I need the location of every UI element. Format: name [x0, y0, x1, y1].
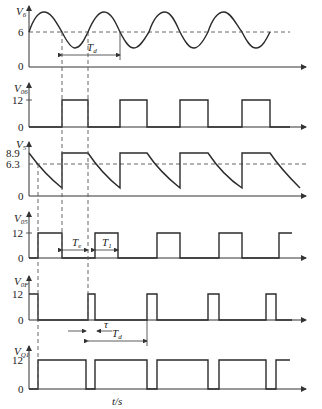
v6-axis-label: V6	[16, 5, 27, 19]
te-label: Te	[72, 236, 81, 250]
tick-12: 12	[12, 227, 23, 239]
panel-v5: V5 8.9 6.3 0	[6, 138, 306, 202]
tick-0: 0	[18, 121, 24, 133]
vq1-square-wave	[29, 360, 290, 389]
td-bottom-label: Td	[112, 327, 122, 341]
v06-square-wave	[29, 100, 290, 127]
v0f-pulse-train	[29, 294, 292, 320]
tick-12: 12	[12, 288, 23, 300]
tick-12: 12	[12, 354, 23, 366]
panel-v6: V6 6 0 Td	[16, 5, 306, 72]
tick-0: 0	[18, 314, 24, 326]
tick-0: 0	[18, 190, 24, 202]
guide-lines	[38, 32, 88, 389]
tick-0: 0	[18, 60, 24, 72]
v5-charge-wave	[29, 153, 300, 188]
tick-0: 0	[18, 383, 24, 395]
td-top-label: Td	[87, 41, 97, 55]
v6-sine-wave	[29, 12, 270, 48]
tick-0: 0	[18, 252, 24, 264]
tick-6: 6	[18, 26, 24, 38]
x-axis-label: t/s	[112, 395, 122, 407]
panel-v05: V05 12 0 Te T1	[12, 212, 306, 264]
v0f-axis-label: V0F	[14, 275, 29, 289]
v05-axis-label: V05	[14, 212, 28, 226]
v05-square-wave	[29, 233, 292, 258]
t1-label: T1	[102, 236, 112, 250]
timing-diagram: V6 6 0 Td V06 12 0 V5 8.9 6.3 0 V05 12 0	[0, 0, 322, 409]
tick-12: 12	[12, 94, 23, 106]
panel-v06: V06 12 0	[12, 82, 306, 133]
panel-v0f: V0F 12 0 τ Td	[12, 275, 306, 346]
tick-6-3: 6.3	[6, 158, 20, 170]
panel-vq1: VQ1 12 0 t/s	[12, 345, 306, 407]
